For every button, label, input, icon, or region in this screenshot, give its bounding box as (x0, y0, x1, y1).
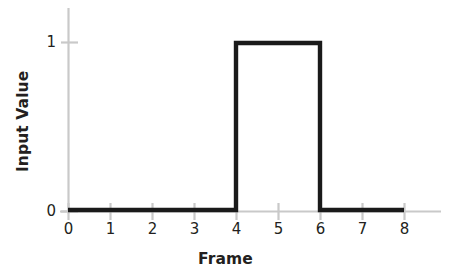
x-axis-title: Frame (0, 250, 451, 268)
y-tick-label-1: 1 (38, 35, 56, 50)
x-tick-label-5: 5 (267, 222, 291, 237)
y-tick-label-0: 0 (38, 204, 56, 219)
x-tick-label-0: 0 (57, 222, 81, 237)
x-tick-label-3: 3 (183, 222, 207, 237)
x-tick-label-2: 2 (141, 222, 165, 237)
x-tick-label-4: 4 (225, 222, 249, 237)
chart-figure: 1 0 0 1 2 3 4 5 6 7 8 Input Value Frame (0, 0, 451, 280)
x-tick-label-1: 1 (99, 222, 123, 237)
chart-plot-area (0, 0, 451, 280)
x-tick-label-7: 7 (351, 222, 375, 237)
y-axis-title: Input Value (14, 71, 32, 172)
x-tick-label-6: 6 (309, 222, 333, 237)
x-tick-label-8: 8 (393, 222, 417, 237)
data-series-input-value (68, 43, 404, 210)
